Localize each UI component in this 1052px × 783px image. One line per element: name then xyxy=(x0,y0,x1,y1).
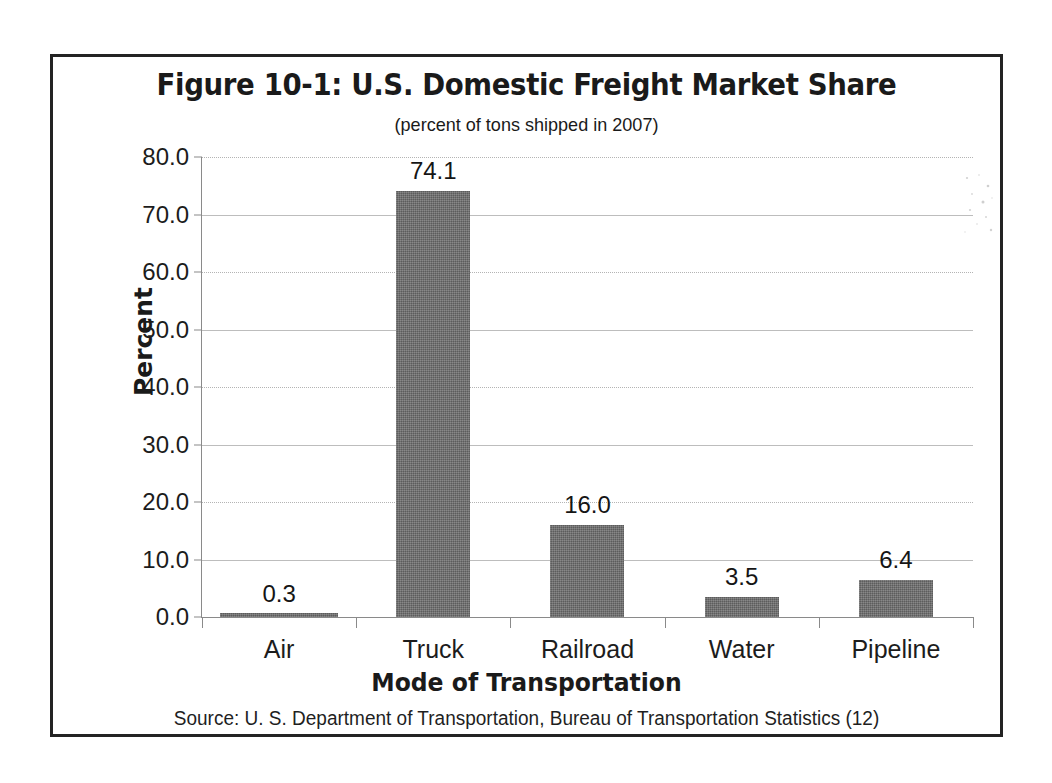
x-category-label: Water xyxy=(709,635,775,664)
x-category-label: Truck xyxy=(402,635,464,664)
y-tick-mark xyxy=(194,559,202,560)
y-tick-label: 0.0 xyxy=(156,603,189,631)
chart-title: Figure 10-1: U.S. Domestic Freight Marke… xyxy=(91,67,962,102)
y-tick-label: 70.0 xyxy=(142,201,189,229)
bar-value-label: 74.1 xyxy=(410,157,457,185)
bar xyxy=(705,597,779,617)
bar-group: 6.4Pipeline xyxy=(819,157,973,617)
y-tick-mark xyxy=(194,502,202,503)
y-tick-label: 30.0 xyxy=(142,431,189,459)
y-tick-mark xyxy=(194,617,202,618)
x-category-label: Railroad xyxy=(541,635,634,664)
plot-area: 80.070.060.050.040.030.020.010.00.0 0.3A… xyxy=(201,157,973,618)
y-tick-label: 10.0 xyxy=(142,546,189,574)
bar xyxy=(220,613,338,617)
y-tick-label: 20.0 xyxy=(142,488,189,516)
bar-value-label: 16.0 xyxy=(564,491,611,519)
bar xyxy=(859,580,933,617)
bar xyxy=(396,191,470,617)
bar-value-label: 0.3 xyxy=(262,580,295,608)
x-axis-label: Mode of Transportation xyxy=(81,668,971,697)
x-tick-mark xyxy=(510,617,511,628)
bar-value-label: 6.4 xyxy=(879,546,912,574)
x-tick-mark xyxy=(973,617,974,628)
x-tick-mark xyxy=(665,617,666,628)
y-tick-mark xyxy=(194,387,202,388)
bar-group: 3.5Water xyxy=(665,157,819,617)
bar-group: 0.3Air xyxy=(202,157,356,617)
y-tick-label: 60.0 xyxy=(142,258,189,286)
bar-value-label: 3.5 xyxy=(725,563,758,591)
y-tick-mark xyxy=(194,329,202,330)
y-tick-mark xyxy=(194,272,202,273)
y-tick-mark xyxy=(194,214,202,215)
x-category-label: Air xyxy=(264,635,295,664)
y-tick-mark xyxy=(194,444,202,445)
x-tick-mark xyxy=(356,617,357,628)
bar xyxy=(550,525,624,617)
chart-subtitle: (percent of tons shipped in 2007) xyxy=(77,114,977,136)
figure-frame: Figure 10-1: U.S. Domestic Freight Marke… xyxy=(50,54,1003,737)
y-tick-label: 40.0 xyxy=(142,373,189,401)
source-note: Source: U. S. Department of Transportati… xyxy=(77,707,977,730)
bar-group: 74.1Truck xyxy=(356,157,510,617)
x-tick-mark xyxy=(819,617,820,628)
x-category-label: Pipeline xyxy=(851,635,940,664)
y-tick-mark xyxy=(194,157,202,158)
y-tick-label: 50.0 xyxy=(142,316,189,344)
y-tick-label: 80.0 xyxy=(142,143,189,171)
bar-group: 16.0Railroad xyxy=(510,157,664,617)
x-tick-mark xyxy=(202,617,203,628)
